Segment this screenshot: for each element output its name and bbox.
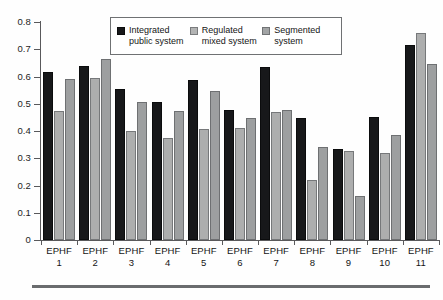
bar (126, 131, 136, 240)
bar (333, 149, 343, 240)
bar (307, 180, 317, 240)
x-axis-group-label-line2: 1 (41, 257, 77, 269)
bar (427, 64, 437, 240)
bar (235, 128, 245, 240)
legend-item-label: Integrated public system (129, 25, 184, 47)
bar (43, 72, 53, 240)
bar (416, 33, 426, 240)
bar (271, 112, 281, 240)
y-axis-tick (34, 49, 40, 50)
legend-item[interactable]: Regulated mixed system (190, 25, 263, 47)
bar (380, 153, 390, 240)
legend-item-label: Segmented system (274, 25, 320, 47)
bar (405, 45, 415, 240)
x-axis-group-label-line1: EPHF (113, 245, 149, 257)
x-axis-group-label: EPHF9 (330, 245, 366, 268)
chart-legend: Integrated public systemRegulated mixed … (110, 17, 342, 55)
y-axis-tick (34, 131, 40, 132)
x-axis-group-label: EPHF10 (367, 245, 403, 268)
bar-group (367, 22, 403, 240)
y-axis-tick (34, 158, 40, 159)
y-axis-tick (34, 186, 40, 187)
bar (152, 102, 162, 240)
x-axis-group-label: EPHF8 (294, 245, 330, 268)
legend-item-label: Regulated mixed system (202, 25, 257, 47)
x-axis-group-label-line1: EPHF (77, 245, 113, 257)
light-gray-swatch-icon (190, 27, 198, 35)
bar (282, 110, 292, 240)
y-axis-tick-label: 0.7 (0, 44, 31, 54)
bar (260, 67, 270, 240)
bar (369, 117, 379, 240)
x-axis-group-label-line2: 7 (258, 257, 294, 269)
bar (90, 78, 100, 240)
y-axis-tick-label: 0.8 (0, 17, 31, 27)
bar (188, 80, 198, 240)
bar-group (403, 22, 439, 240)
bar (163, 138, 173, 240)
bar (79, 66, 89, 240)
bar (344, 151, 354, 240)
x-axis-group-label-line2: 9 (330, 257, 366, 269)
bar (174, 111, 184, 240)
x-axis-group-label-line1: EPHF (222, 245, 258, 257)
medium-gray-swatch-icon (262, 27, 270, 35)
bar-chart: 0.80.70.60.50.40.30.20.10 EPHF1EPHF2EPHF… (0, 0, 443, 300)
x-axis-group-label-line1: EPHF (258, 245, 294, 257)
x-axis-group-label-line1: EPHF (150, 245, 186, 257)
legend-item[interactable]: Integrated public system (117, 25, 190, 47)
x-axis-group-label: EPHF3 (113, 245, 149, 268)
bar-group (77, 22, 113, 240)
y-axis-tick (34, 240, 40, 241)
y-axis-tick (34, 104, 40, 105)
bar (355, 196, 365, 240)
y-axis-tick (34, 77, 40, 78)
x-axis-group-label: EPHF6 (222, 245, 258, 268)
x-axis-group-label-line1: EPHF (41, 245, 77, 257)
x-axis-group-label: EPHF11 (403, 245, 439, 268)
bar (224, 110, 234, 240)
y-axis-tick-label: 0.1 (0, 208, 31, 218)
x-axis-group-label-line1: EPHF (294, 245, 330, 257)
y-axis-tick (34, 22, 40, 23)
x-axis-group-label-line2: 2 (77, 257, 113, 269)
bar (199, 129, 209, 240)
x-axis-group-label: EPHF1 (41, 245, 77, 268)
x-axis-group-label: EPHF5 (186, 245, 222, 268)
x-axis-line (40, 240, 439, 241)
y-axis-tick-label: 0.6 (0, 72, 31, 82)
x-axis-tick (439, 240, 440, 245)
bar (115, 89, 125, 241)
bottom-divider-rule (32, 285, 430, 288)
bar (65, 79, 75, 240)
x-axis-group-label-line1: EPHF (403, 245, 439, 257)
bar-group (41, 22, 77, 240)
legend-item[interactable]: Segmented system (262, 25, 335, 47)
y-axis-tick-label: 0.3 (0, 153, 31, 163)
black-swatch-icon (117, 27, 125, 35)
x-axis-group-label: EPHF7 (258, 245, 294, 268)
y-axis-tick-label: 0.2 (0, 181, 31, 191)
y-axis-tick-label: 0 (0, 235, 31, 245)
x-axis-group-label-line1: EPHF (186, 245, 222, 257)
y-axis-tick-label: 0.4 (0, 126, 31, 136)
x-axis-group-label-line2: 10 (367, 257, 403, 269)
x-axis-group-label-line1: EPHF (330, 245, 366, 257)
x-axis-group-label-line1: EPHF (367, 245, 403, 257)
x-axis-group-label-line2: 6 (222, 257, 258, 269)
bar (391, 135, 401, 240)
x-axis-group-label-line2: 5 (186, 257, 222, 269)
bar (137, 102, 147, 240)
bar (246, 118, 256, 240)
bar (318, 147, 328, 240)
y-axis-tick (34, 213, 40, 214)
x-axis-group-label-line2: 3 (113, 257, 149, 269)
x-axis-group-label: EPHF2 (77, 245, 113, 268)
bar (296, 118, 306, 240)
x-axis-group-label: EPHF4 (150, 245, 186, 268)
bar (210, 91, 220, 240)
bar (54, 111, 64, 240)
bar (101, 59, 111, 240)
x-axis-group-label-line2: 11 (403, 257, 439, 269)
y-axis-tick-label: 0.5 (0, 99, 31, 109)
